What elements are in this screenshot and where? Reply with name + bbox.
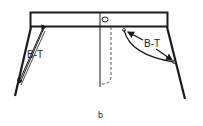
right-side-seam [167, 27, 185, 99]
right-measure-label: B-T [144, 38, 160, 49]
figure-subtitle: b [98, 110, 103, 120]
fly-stitching [101, 27, 111, 84]
waistband [31, 13, 168, 27]
button-icon [102, 17, 108, 22]
diagram-svg: B-T B-T b [0, 0, 203, 126]
right-measure-arrow-a [128, 32, 143, 40]
pants-front-diagram: B-T B-T b [0, 0, 203, 126]
left-measure-label: B-T [27, 49, 43, 60]
left-side-seam [15, 27, 31, 96]
